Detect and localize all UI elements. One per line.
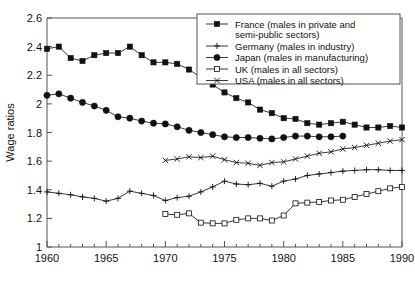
marker-filled-circle bbox=[292, 133, 298, 139]
marker-filled-square bbox=[214, 21, 219, 26]
marker-plus bbox=[245, 182, 251, 188]
y-tick-label: 1.2 bbox=[27, 212, 42, 224]
marker-open-square bbox=[269, 218, 274, 223]
marker-open-square bbox=[222, 221, 227, 226]
marker-plus bbox=[115, 195, 121, 201]
marker-filled-circle bbox=[198, 129, 204, 135]
marker-filled-circle bbox=[103, 107, 109, 113]
marker-plus bbox=[316, 171, 322, 177]
legend-label: Germany (males in industry) bbox=[235, 41, 354, 52]
marker-plus bbox=[91, 195, 97, 201]
marker-open-square bbox=[258, 216, 263, 221]
marker-plus bbox=[80, 194, 86, 200]
marker-filled-circle bbox=[221, 134, 227, 140]
marker-filled-circle bbox=[245, 134, 251, 140]
marker-filled-square bbox=[44, 46, 49, 51]
marker-plus bbox=[352, 167, 358, 173]
marker-plus bbox=[257, 180, 263, 186]
y-tick-label: 2.2 bbox=[27, 69, 42, 81]
marker-filled-circle bbox=[91, 103, 97, 109]
legend-label: USA (males in all sectors) bbox=[235, 75, 344, 86]
marker-plus bbox=[375, 167, 381, 173]
marker-filled-square bbox=[317, 122, 322, 127]
marker-filled-square bbox=[80, 58, 85, 63]
marker-plus bbox=[198, 189, 204, 195]
marker-plus bbox=[68, 192, 74, 198]
marker-filled-circle bbox=[174, 124, 180, 130]
series-japan bbox=[44, 91, 346, 142]
y-axis-title: Wage ratios bbox=[4, 103, 16, 162]
marker-plus bbox=[210, 184, 216, 190]
marker-filled-square bbox=[127, 44, 132, 49]
marker-plus bbox=[281, 178, 287, 184]
marker-filled-square bbox=[364, 125, 369, 130]
marker-filled-square bbox=[376, 125, 381, 130]
marker-filled-circle bbox=[162, 121, 168, 127]
x-tick-label: 1965 bbox=[94, 252, 118, 264]
marker-filled-circle bbox=[210, 132, 216, 138]
marker-filled-square bbox=[388, 123, 393, 128]
x-axis: 1960196519701975198019851990 bbox=[35, 241, 414, 264]
marker-filled-circle bbox=[139, 118, 145, 124]
x-tick-label: 1960 bbox=[35, 252, 59, 264]
marker-plus bbox=[127, 188, 133, 194]
marker-filled-square bbox=[399, 125, 404, 130]
marker-open-square bbox=[376, 189, 381, 194]
legend-label: France (males in private and bbox=[235, 19, 355, 30]
marker-filled-circle bbox=[340, 133, 346, 139]
marker-plus bbox=[162, 197, 168, 203]
legend-label: UK (males in all sectors) bbox=[235, 64, 338, 75]
marker-filled-circle bbox=[79, 99, 85, 105]
marker-plus bbox=[103, 198, 109, 204]
marker-plus bbox=[269, 183, 275, 189]
marker-open-square bbox=[175, 212, 180, 217]
y-tick-label: 2.6 bbox=[27, 12, 42, 24]
marker-filled-circle bbox=[127, 115, 133, 121]
marker-filled-square bbox=[246, 100, 251, 105]
marker-filled-circle bbox=[150, 120, 156, 126]
marker-plus bbox=[222, 178, 228, 184]
marker-plus bbox=[233, 181, 239, 187]
marker-filled-square bbox=[186, 67, 191, 72]
legend-label-cont: semi-public sectors) bbox=[235, 29, 319, 40]
y-tick-label: 1.6 bbox=[27, 155, 42, 167]
marker-open-square bbox=[246, 216, 251, 221]
marker-plus bbox=[151, 192, 157, 198]
marker-plus bbox=[293, 176, 299, 182]
marker-filled-square bbox=[68, 55, 73, 60]
marker-plus bbox=[139, 190, 145, 196]
marker-filled-square bbox=[175, 61, 180, 66]
marker-plus bbox=[340, 168, 346, 174]
marker-filled-square bbox=[328, 121, 333, 126]
marker-filled-circle bbox=[115, 114, 121, 120]
marker-open-square bbox=[210, 221, 215, 226]
marker-filled-square bbox=[281, 116, 286, 121]
marker-plus bbox=[399, 167, 405, 173]
marker-filled-circle bbox=[316, 134, 322, 140]
marker-open-square bbox=[163, 212, 168, 217]
marker-open-square bbox=[198, 220, 203, 225]
marker-plus bbox=[56, 190, 62, 196]
marker-open-square bbox=[329, 198, 334, 203]
marker-filled-circle bbox=[328, 134, 334, 140]
marker-filled-square bbox=[269, 111, 274, 116]
marker-plus bbox=[387, 167, 393, 173]
x-tick-label: 1990 bbox=[390, 252, 414, 264]
marker-open-square bbox=[305, 200, 310, 205]
x-tick-label: 1985 bbox=[331, 252, 355, 264]
marker-plus bbox=[364, 167, 370, 173]
marker-open-square bbox=[317, 199, 322, 204]
x-tick-label: 1980 bbox=[271, 252, 295, 264]
wage-ratios-chart: 11.21.41.61.822.22.42.6Wage ratios196019… bbox=[0, 0, 415, 284]
marker-open-square bbox=[293, 201, 298, 206]
series-path bbox=[47, 170, 402, 201]
marker-filled-circle bbox=[214, 54, 220, 60]
marker-filled-circle bbox=[44, 92, 50, 98]
marker-open-square bbox=[234, 217, 239, 222]
marker-filled-square bbox=[139, 53, 144, 58]
series-path bbox=[47, 94, 343, 139]
marker-filled-square bbox=[340, 119, 345, 124]
marker-filled-square bbox=[104, 50, 109, 55]
marker-filled-square bbox=[92, 53, 97, 58]
marker-open-square bbox=[388, 186, 393, 191]
